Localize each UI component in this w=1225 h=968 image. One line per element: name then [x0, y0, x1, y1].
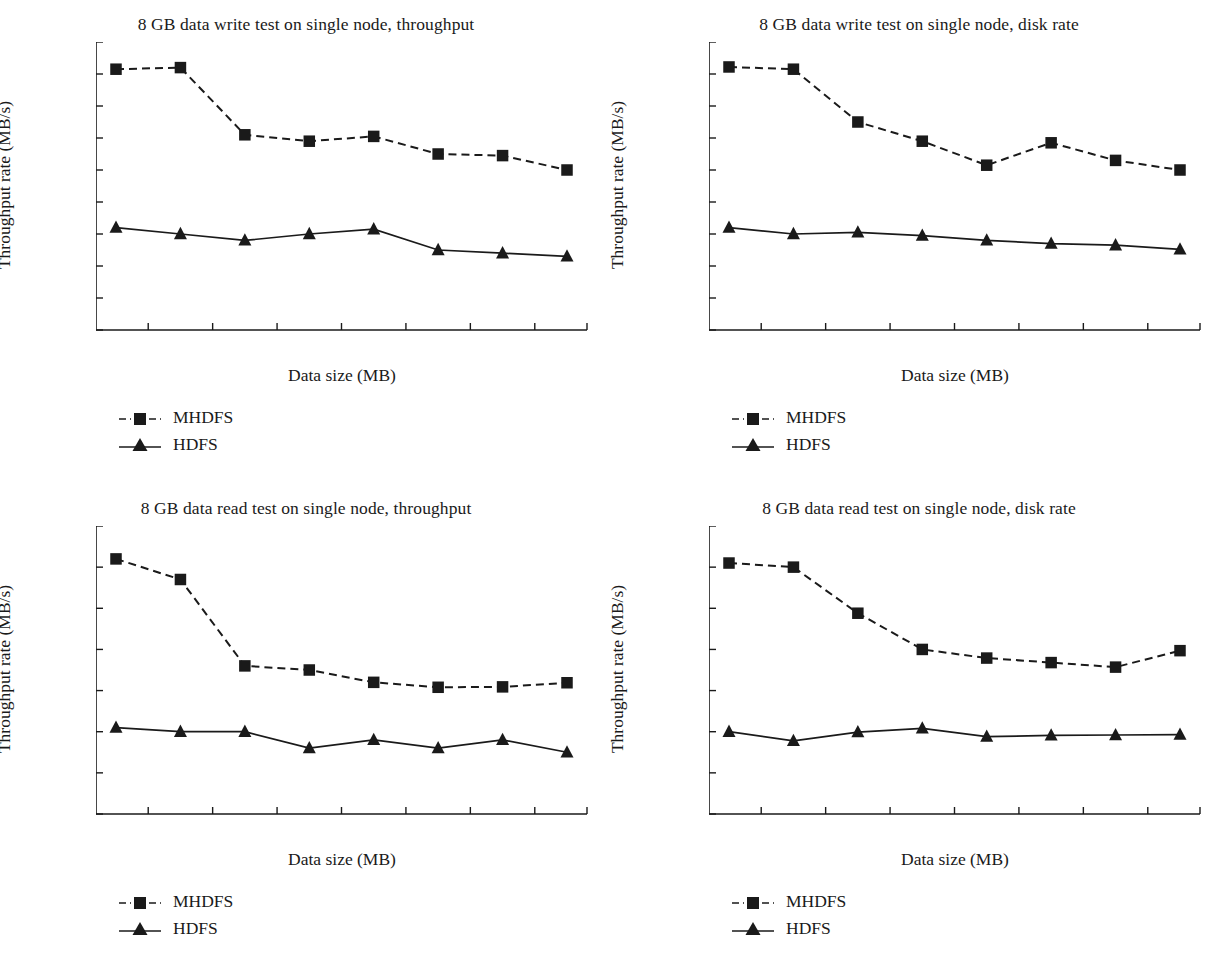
data-point-square-marker — [110, 63, 122, 74]
dashed-square-marker-icon — [118, 409, 162, 427]
data-point-square-marker — [788, 63, 800, 74]
data-point-square-marker — [497, 150, 509, 162]
figure-four-panel-benchmark: 8 GB data write test on single node, thr… — [0, 0, 1225, 968]
legend-item-hdfs[interactable]: HDFS — [118, 431, 233, 458]
solid-triangle-marker-icon — [118, 436, 162, 454]
x-axis-label-top-right: Data size (MB) — [709, 365, 1201, 386]
legend-bottom-right: MHDFS HDFS — [731, 888, 846, 942]
legend-label-mhdfs: MHDFS — [173, 404, 233, 431]
chart-svg-top-left: 0100200300400500600700800900100020003000… — [96, 42, 588, 332]
data-point-square-marker — [561, 164, 573, 176]
data-point-square-marker — [1110, 661, 1122, 673]
data-point-square-marker — [239, 660, 251, 672]
series-line-mhdfs — [729, 67, 1180, 170]
data-point-triangle-marker — [916, 721, 929, 733]
data-point-square-marker — [368, 677, 380, 689]
data-point-square-marker — [304, 135, 316, 147]
data-point-square-marker — [981, 652, 993, 664]
legend-item-hdfs[interactable]: HDFS — [731, 915, 846, 942]
page-title: 8 GB data read test on single node, disk… — [613, 498, 1225, 519]
data-point-triangle-marker — [238, 725, 251, 737]
data-point-square-marker — [1045, 657, 1057, 669]
data-point-triangle-marker — [723, 220, 736, 232]
data-point-triangle-marker — [1109, 728, 1122, 740]
data-point-triangle-marker — [110, 720, 123, 732]
data-point-square-marker — [561, 677, 573, 689]
legend-item-hdfs[interactable]: HDFS — [731, 431, 846, 458]
legend-label-mhdfs: MHDFS — [786, 404, 846, 431]
data-point-square-marker — [110, 553, 122, 565]
data-point-triangle-marker — [367, 222, 380, 234]
chart-svg-bottom-left: 0500100015002000250030003500100020003000… — [96, 526, 588, 816]
legend-label-mhdfs: MHDFS — [786, 888, 846, 915]
solid-triangle-marker-icon — [118, 920, 162, 938]
solid-triangle-marker-icon — [731, 920, 775, 938]
legend-top-left: MHDFS HDFS — [118, 404, 233, 458]
data-point-triangle-marker — [1174, 727, 1187, 739]
data-point-square-marker — [852, 116, 864, 128]
data-point-square-marker — [917, 135, 929, 147]
legend-item-mhdfs[interactable]: MHDFS — [118, 404, 233, 431]
data-point-triangle-marker — [496, 733, 509, 745]
data-point-square-marker — [1045, 137, 1057, 149]
page-title: 8 GB data write test on single node, thr… — [0, 14, 612, 35]
legend-label-hdfs: HDFS — [786, 431, 831, 458]
legend-item-mhdfs[interactable]: MHDFS — [118, 888, 233, 915]
data-point-square-marker — [497, 681, 509, 693]
data-point-square-marker — [239, 129, 251, 141]
data-point-triangle-marker — [110, 220, 123, 232]
legend-label-hdfs: HDFS — [786, 915, 831, 942]
x-axis-label-bottom-right: Data size (MB) — [709, 849, 1201, 870]
x-axis-label-top-left: Data size (MB) — [96, 365, 588, 386]
plot-area-top-right: 0100200300400500600700800900100020003000… — [709, 42, 1201, 332]
data-point-square-marker — [788, 561, 800, 573]
legend-bottom-left: MHDFS HDFS — [118, 888, 233, 942]
data-point-square-marker — [1174, 645, 1186, 657]
plot-area-top-left: 0100200300400500600700800900100020003000… — [96, 42, 588, 332]
data-point-square-marker — [1174, 164, 1186, 176]
dashed-square-marker-icon — [731, 409, 775, 427]
legend-item-hdfs[interactable]: HDFS — [118, 915, 233, 942]
chart-svg-bottom-right: 0500100015002000250030003500100020003000… — [709, 526, 1201, 816]
data-point-square-marker — [852, 607, 864, 619]
chart-svg-top-right: 0100200300400500600700800900100020003000… — [709, 42, 1201, 332]
plot-area-bottom-right: 0500100015002000250030003500100020003000… — [709, 526, 1201, 816]
dashed-square-marker-icon — [118, 893, 162, 911]
data-point-square-marker — [432, 682, 444, 694]
data-point-triangle-marker — [1109, 238, 1122, 250]
page-title: 8 GB data read test on single node, thro… — [0, 498, 612, 519]
data-point-square-marker — [1110, 155, 1122, 167]
legend-label-hdfs: HDFS — [173, 431, 218, 458]
chart-panel-bottom-left: 8 GB data read test on single node, thro… — [0, 484, 612, 968]
data-point-square-marker — [368, 131, 380, 143]
legend-label-hdfs: HDFS — [173, 915, 218, 942]
data-point-square-marker — [723, 557, 735, 569]
plot-area-bottom-left: 0500100015002000250030003500100020003000… — [96, 526, 588, 816]
data-point-square-marker — [432, 148, 444, 160]
series-line-mhdfs — [729, 563, 1180, 667]
data-point-square-marker — [723, 61, 735, 73]
data-point-square-marker — [304, 664, 316, 676]
legend-top-right: MHDFS HDFS — [731, 404, 846, 458]
data-point-triangle-marker — [851, 225, 864, 237]
legend-item-mhdfs[interactable]: MHDFS — [731, 404, 846, 431]
legend-item-mhdfs[interactable]: MHDFS — [731, 888, 846, 915]
data-point-square-marker — [981, 159, 993, 171]
data-point-triangle-marker — [367, 733, 380, 745]
solid-triangle-marker-icon — [731, 436, 775, 454]
data-point-square-marker — [175, 574, 187, 586]
data-point-square-marker — [175, 62, 187, 74]
dashed-square-marker-icon — [731, 893, 775, 911]
chart-panel-top-left: 8 GB data write test on single node, thr… — [0, 0, 612, 484]
data-point-triangle-marker — [1045, 728, 1058, 740]
series-line-hdfs — [116, 228, 567, 257]
x-axis-label-bottom-left: Data size (MB) — [96, 849, 588, 870]
legend-label-mhdfs: MHDFS — [173, 888, 233, 915]
data-point-square-marker — [917, 644, 929, 656]
chart-panel-top-right: 8 GB data write test on single node, dis… — [613, 0, 1225, 484]
chart-panel-bottom-right: 8 GB data read test on single node, disk… — [613, 484, 1225, 968]
data-point-triangle-marker — [723, 725, 736, 737]
page-title: 8 GB data write test on single node, dis… — [613, 14, 1225, 35]
